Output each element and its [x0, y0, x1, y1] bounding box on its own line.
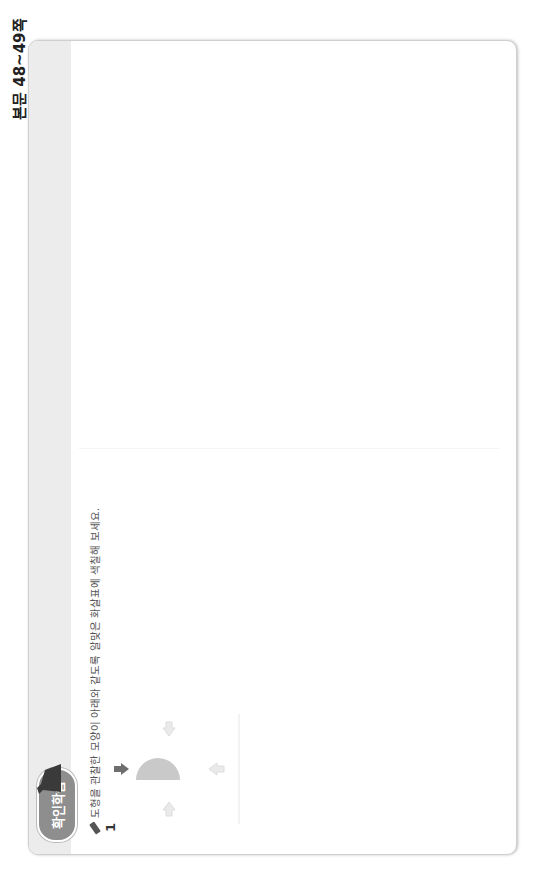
arrow-right-icon[interactable]	[163, 722, 175, 736]
textbook-spread: 확인학습 도형을 관찰한 모양이 아래와 같도록 알맞은 화살표에 색칠해 보세…	[28, 40, 517, 855]
header-strip	[29, 41, 71, 854]
arrow-left-icon[interactable]	[163, 802, 175, 816]
badge-group: 확인학습	[37, 768, 77, 842]
instruction-text: 도형을 관찰한 모양이 아래와 같도록 알맞은 화살표에 색칠해 보세요.	[87, 508, 102, 818]
arrow-top-icon[interactable]	[114, 763, 129, 775]
arrow-bottom-icon[interactable]	[209, 763, 224, 775]
giraffe-icon	[35, 760, 63, 796]
rotated-page-stage: 본문 48~49쪽 확인학습 도형을 관찰한 모양이 아래와 같도록 알맞은 화…	[0, 0, 544, 882]
instruction-q1-3: 도형을 관찰한 모양이 아래와 같도록 알맞은 화살표에 색칠해 보세요.	[87, 508, 102, 834]
side-label: 본문 48~49쪽	[8, 18, 29, 120]
question-number: 1	[103, 823, 118, 832]
page-spine	[79, 448, 499, 449]
pencil-icon	[89, 821, 101, 834]
question-1	[109, 714, 269, 824]
